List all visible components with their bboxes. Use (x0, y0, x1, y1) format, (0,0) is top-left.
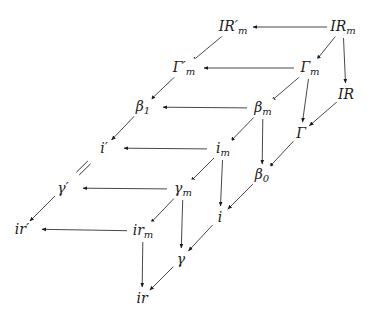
node-ir: ir (134, 290, 149, 306)
arrow-im-to-gm (191, 157, 215, 181)
arrow-b1-to-ip (112, 115, 136, 140)
equality-line (76, 161, 87, 172)
arrow-IRm-to-Gm (317, 36, 336, 60)
arrow-im-to-ip (124, 148, 207, 149)
node-label: β (136, 98, 144, 114)
node-b0: β0 (253, 166, 271, 185)
node-subscript: 0 (263, 173, 269, 184)
node-label: Γ′ (173, 59, 186, 75)
node-subscript: m (186, 66, 195, 77)
node-b1: β1 (134, 98, 152, 117)
node-label: i′ (100, 140, 108, 156)
node-Gpm: Γ′m (171, 59, 197, 78)
node-label: i (218, 209, 222, 225)
node-label: γ′ (57, 180, 69, 196)
arrow-b0-to-i (228, 183, 254, 209)
node-label: IR (338, 86, 354, 102)
arrow-Gm-to-bm (271, 75, 301, 101)
arrow-IRpm-to-Gpm (192, 34, 224, 61)
arrow-IR-to-G (309, 101, 337, 126)
arrow-bm-to-b1 (163, 107, 247, 108)
node-label: β (254, 99, 262, 115)
node-label: IR (330, 18, 346, 34)
node-G: Γ (294, 125, 308, 141)
node-label: ir′ (15, 221, 29, 237)
arrow-gm-to-irm (151, 197, 176, 223)
node-label: Γ (300, 59, 310, 75)
node-subscript: m (182, 187, 191, 198)
node-IR: IR (336, 86, 356, 102)
node-im: im (214, 140, 232, 159)
node-label: Γ (296, 125, 306, 141)
node-IRpm: IR′m (217, 18, 250, 37)
node-irm: irm (131, 222, 156, 241)
arrow-Gpm-to-b1 (151, 76, 176, 100)
node-IRm: IRm (328, 18, 358, 37)
arrow-bm-to-b0 (262, 119, 263, 164)
node-subscript: m (346, 25, 355, 36)
node-subscript: m (238, 25, 247, 36)
node-subscript: m (310, 66, 319, 77)
arrow-IRm-to-IR (344, 38, 346, 83)
arrow-irm-to-ir (142, 242, 143, 287)
node-subscript: 1 (144, 105, 150, 116)
arrow-Gm-to-G (303, 79, 309, 122)
arrow-g-to-ir (150, 267, 173, 290)
node-label: ir (136, 290, 147, 306)
commutative-diagram: IR′mIRmΓ′mΓmIRβ1βmΓi′imβ0γ′γmiir′irmγir (0, 0, 379, 317)
arrow-G-to-b0 (270, 141, 294, 167)
node-gp: γ′ (55, 180, 71, 196)
node-label: γ (177, 251, 185, 267)
node-subscript: m (262, 106, 271, 117)
node-gm: γm (172, 180, 194, 199)
equality-line (79, 164, 90, 175)
arrow-i-to-g (189, 225, 213, 251)
node-Gm: Γm (298, 59, 321, 78)
arrow-gm-to-g (181, 200, 182, 248)
node-bm: βm (252, 99, 274, 118)
node-ip: i′ (98, 140, 110, 156)
node-subscript: m (144, 229, 153, 240)
arrow-irm-to-irp (42, 229, 127, 230)
node-g: γ (175, 251, 187, 267)
node-irp: ir′ (13, 221, 31, 237)
arrow-im-to-i (221, 160, 223, 206)
node-label: IR′ (219, 18, 238, 34)
arrow-gp-to-irp (30, 196, 55, 221)
node-label: ir (133, 222, 144, 238)
arrow-bm-to-im (231, 116, 256, 141)
node-subscript: m (221, 147, 230, 158)
arrows-layer (0, 0, 379, 317)
node-label: β (255, 166, 263, 182)
arrow-gm-to-gp (83, 188, 167, 189)
equality-group (76, 161, 90, 175)
node-i: i (216, 209, 224, 225)
